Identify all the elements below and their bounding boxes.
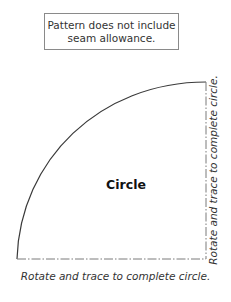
side-fold-label: Rotate and trace to complete circle. bbox=[207, 75, 219, 264]
quarter-circle-pattern bbox=[0, 0, 231, 302]
bottom-fold-label: Rotate and trace to complete circle. bbox=[0, 270, 231, 282]
pattern-title: Circle bbox=[96, 177, 156, 192]
pattern-arc-cut-line bbox=[17, 82, 206, 259]
